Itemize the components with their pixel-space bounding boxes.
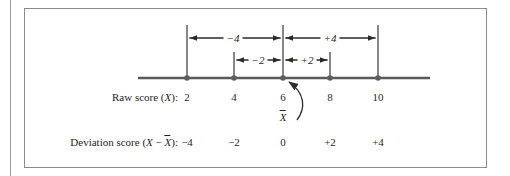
raw-score-value: 4 xyxy=(231,91,237,103)
row-label-raw-score: Raw score (X): xyxy=(112,91,178,103)
mean-symbol-label: X xyxy=(280,111,287,123)
span-label-minus-two: −2 xyxy=(249,54,268,66)
span-label-minus-four: −4 xyxy=(224,32,243,44)
row-label-deviation-score: Deviation score (X − X): xyxy=(70,136,178,148)
deviation-score-value: +2 xyxy=(324,136,336,148)
deviation-score-value: −2 xyxy=(228,136,240,148)
raw-score-value: 8 xyxy=(327,91,333,103)
span-label-plus-four: +4 xyxy=(321,32,340,44)
span-label-plus-two: +2 xyxy=(298,54,317,66)
deviation-score-value: −4 xyxy=(181,136,193,148)
raw-score-value: 6 xyxy=(280,91,286,103)
figure-text-layer: −4 +4 −2 +2 Raw score (X): 2 4 6 8 10 X … xyxy=(0,0,510,176)
deviation-score-value: +4 xyxy=(372,136,384,148)
raw-score-value: 2 xyxy=(184,91,190,103)
raw-score-value: 10 xyxy=(373,91,384,103)
deviation-score-value: 0 xyxy=(280,136,286,148)
